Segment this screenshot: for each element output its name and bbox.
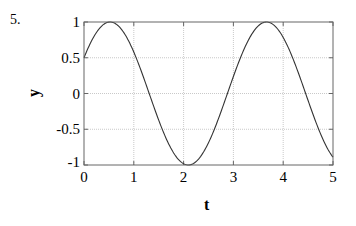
line-chart: 01234510.50-0.5-1 [0,0,356,226]
x-tick-label: 2 [180,169,188,185]
x-tick-label: 3 [230,169,238,185]
y-tick-label: 1 [73,14,81,30]
y-tick-label: -1 [68,154,81,170]
y-tick-label: 0 [73,86,81,102]
tick-labels: 01234510.50-0.5-1 [56,14,337,185]
x-tick-label: 4 [279,169,287,185]
y-tick-label: -0.5 [56,121,80,137]
x-tick-label: 5 [329,169,337,185]
y-tick-label: 0.5 [61,50,80,66]
x-tick-label: 1 [130,169,138,185]
x-tick-label: 0 [80,169,88,185]
